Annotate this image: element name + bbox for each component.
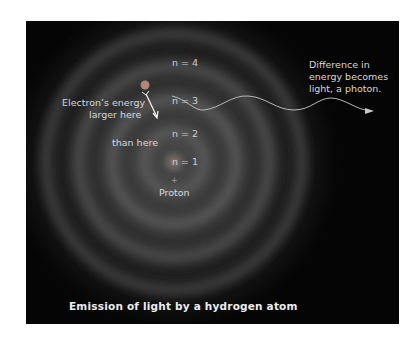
proton-label: Proton	[159, 187, 190, 199]
level-label-n4: n = 4	[172, 57, 198, 68]
level-label-n3: n = 3	[172, 95, 198, 106]
photon-label-line2: energy becomes	[309, 71, 388, 83]
photon-label-line1: Difference in	[309, 59, 370, 71]
electron-label-line3: than here	[112, 137, 158, 149]
photon-label-line3: light, a photon.	[309, 83, 381, 95]
hydrogen-atom-figure: n = 4 n = 3 n = 2 n = 1 + Proton Electro…	[26, 21, 399, 324]
figure-caption: Emission of light by a hydrogen atom	[69, 300, 298, 312]
level-label-n2: n = 2	[172, 128, 198, 139]
electron-label-line2: larger here	[89, 109, 141, 121]
electron-label-line1: Electron’s energy	[62, 97, 145, 109]
proton-plus-sign: +	[171, 176, 178, 185]
level-label-n1: n = 1	[172, 156, 198, 167]
electron-dot	[141, 81, 150, 90]
